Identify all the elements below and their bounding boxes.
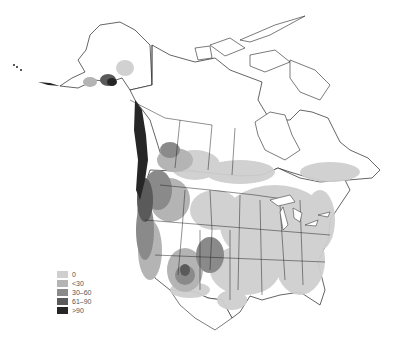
legend-label: <30 — [72, 280, 84, 287]
legend-item-0: 0 — [57, 270, 91, 279]
legend-label: 0 — [72, 271, 76, 278]
legend-item-3: 61–90 — [57, 297, 91, 306]
aleutian-islands — [13, 64, 60, 86]
legend-swatch — [57, 271, 68, 278]
legend-item-1: <30 — [57, 279, 91, 288]
legend-label: 61–90 — [72, 298, 91, 305]
legend: 0 <30 30–60 61–90 >90 — [57, 270, 91, 315]
legend-item-2: 30–60 — [57, 288, 91, 297]
legend-swatch — [57, 289, 68, 296]
legend-label: >90 — [72, 307, 84, 314]
legend-swatch — [57, 280, 68, 287]
legend-item-4: >90 — [57, 306, 91, 315]
legend-swatch — [57, 307, 68, 314]
legend-label: 30–60 — [72, 289, 91, 296]
legend-swatch — [57, 298, 68, 305]
